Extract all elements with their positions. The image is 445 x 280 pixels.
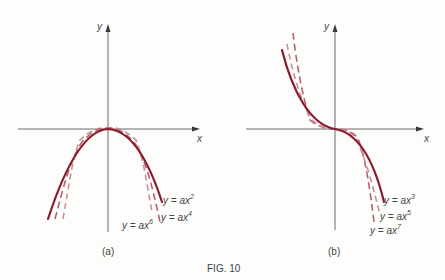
y-axis-arrow-icon	[106, 24, 111, 32]
y-axis-label: y	[323, 21, 330, 32]
panel-b-label: (b)	[328, 246, 340, 257]
label-ax3: y = ax3	[383, 193, 415, 206]
figure-caption: FIG. 10	[207, 263, 241, 274]
y-axis-arrow-icon	[333, 24, 338, 32]
x-axis-label: x	[196, 133, 203, 144]
label-ax6: y = ax6	[121, 218, 153, 231]
curve-ax7	[293, 33, 374, 222]
label-ax4: y = ax4	[160, 210, 192, 223]
panel-a: y x y = ax2 y = ax4 y = ax6 (a)	[18, 21, 203, 257]
x-axis-arrow-icon	[192, 127, 200, 132]
figure-10: y x y = ax2 y = ax4 y = ax6 (a) y x	[0, 0, 445, 280]
x-axis-arrow-icon	[416, 127, 424, 132]
label-ax2: y = ax2	[162, 193, 194, 206]
panel-b: y x y = ax3 y = ax5 y = ax7 (b)	[246, 21, 430, 257]
y-axis-label: y	[96, 21, 103, 32]
label-ax5: y = ax5	[379, 209, 411, 222]
label-ax7: y = ax7	[369, 223, 402, 236]
x-axis-label: x	[423, 133, 430, 144]
panel-a-label: (a)	[102, 246, 114, 257]
curve-ax3	[282, 50, 384, 202]
